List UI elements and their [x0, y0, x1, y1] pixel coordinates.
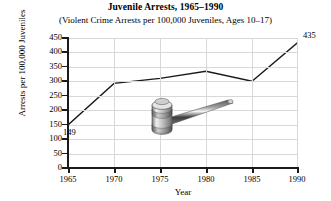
x-axis-tick-label: 1975 — [140, 175, 180, 184]
x-axis-title: Year — [68, 187, 298, 197]
x-axis-tick-label: 1990 — [277, 175, 317, 184]
chart-subtitle: (Violent Crime Arrests per 100,000 Juven… — [0, 15, 331, 25]
gridline-horizontal — [68, 125, 298, 126]
plot-area — [68, 38, 298, 168]
y-axis-tick — [62, 138, 68, 140]
data-series-line — [68, 38, 298, 168]
y-axis-tick-label: 150 — [22, 120, 62, 129]
gridline-vertical — [114, 38, 115, 168]
gridline-horizontal — [68, 67, 298, 68]
x-axis-tick-label: 1965 — [48, 175, 88, 184]
data-label-1965: 149 — [63, 128, 76, 137]
x-axis-tick — [297, 168, 299, 173]
gridline-horizontal — [68, 110, 298, 111]
y-axis-tick — [62, 153, 68, 155]
y-axis-tick-label: 250 — [22, 91, 62, 100]
x-axis-tick — [160, 168, 162, 173]
y-axis-tick-label: 400 — [22, 47, 62, 56]
x-axis-tick-label: 1980 — [186, 175, 226, 184]
y-axis-tick-label: 100 — [22, 134, 62, 143]
y-axis-tick-label: 200 — [22, 105, 62, 114]
gridline-vertical — [252, 38, 253, 168]
y-axis-tick-label: 0 — [22, 163, 62, 172]
y-axis-title: Arrests per 100,000 Juveniles — [17, 0, 27, 133]
gridline-horizontal — [68, 81, 298, 82]
x-axis-line — [67, 167, 299, 169]
y-axis-tick — [62, 37, 68, 39]
y-axis-tick-label: 450 — [22, 33, 62, 42]
chart-title: Juvenile Arrests, 1965–1990 — [0, 2, 331, 12]
y-axis-tick-label: 350 — [22, 62, 62, 71]
x-axis-tick-label: 1985 — [232, 175, 272, 184]
gridline-horizontal — [68, 52, 298, 53]
gridline-vertical — [297, 38, 298, 168]
y-axis-tick-label: 50 — [22, 149, 62, 158]
data-label-1990: 435 — [303, 31, 316, 40]
x-axis-tick — [68, 168, 70, 173]
x-axis-tick-label: 1970 — [94, 175, 134, 184]
x-axis-tick — [114, 168, 116, 173]
y-axis-tick — [62, 109, 68, 111]
y-axis-tick — [62, 80, 68, 82]
chart-figure: Juvenile Arrests, 1965–1990 (Violent Cri… — [0, 0, 331, 201]
y-axis-tick — [62, 95, 68, 97]
gridline-vertical — [206, 38, 207, 168]
gridline-horizontal — [68, 139, 298, 140]
y-axis-tick-label: 300 — [22, 76, 62, 85]
y-axis-tick — [62, 51, 68, 53]
x-axis-tick — [206, 168, 208, 173]
y-axis-tick — [62, 66, 68, 68]
y-axis-line — [67, 37, 69, 168]
gridline-horizontal — [68, 38, 298, 39]
gridline-vertical — [160, 38, 161, 168]
x-axis-tick — [252, 168, 254, 173]
y-axis-tick — [62, 124, 68, 126]
gridline-horizontal — [68, 154, 298, 155]
gridline-horizontal — [68, 96, 298, 97]
